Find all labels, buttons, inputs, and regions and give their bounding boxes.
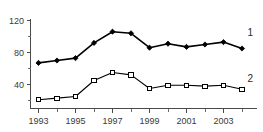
- x-tick-label-1993: 1993: [28, 116, 48, 126]
- series-2-point: [166, 83, 170, 87]
- x-tick-label-1999: 1999: [139, 116, 159, 126]
- series-1-markers: [36, 29, 245, 65]
- series-2-point: [92, 78, 96, 82]
- series-2-point: [129, 73, 133, 77]
- series-2-point: [203, 84, 207, 88]
- series-1-point: [239, 46, 244, 51]
- y-axis-major-ticks: [27, 21, 31, 85]
- line-chart: 120 80 40 1993 1995 1997 1999 2001 2003: [0, 0, 263, 132]
- x-tick-label-1997: 1997: [102, 116, 122, 126]
- x-tick-label-2001: 2001: [176, 116, 196, 126]
- series-2-point: [240, 87, 244, 91]
- series-2-line: [39, 73, 243, 100]
- y-tick-label-80: 80: [14, 48, 24, 58]
- y-tick-label-120: 120: [9, 16, 24, 26]
- series-1-point: [36, 60, 41, 65]
- series-2-label: 2: [248, 73, 254, 84]
- chart-plot-area: 120 80 40 1993 1995 1997 1999 2001 2003: [0, 0, 263, 132]
- series-2-point: [147, 86, 151, 90]
- series-1-line: [39, 32, 243, 63]
- chart-axes: [31, 19, 257, 109]
- series-1-label: 1: [248, 27, 254, 38]
- y-tick-label-40: 40: [14, 80, 24, 90]
- series-1-point: [202, 42, 207, 47]
- series-2-point: [110, 70, 114, 74]
- series-2-point: [184, 83, 188, 87]
- x-tick-label-2003: 2003: [213, 116, 233, 126]
- series-2-point: [36, 98, 40, 102]
- series-2-point: [73, 94, 77, 98]
- series-2-point: [221, 83, 225, 87]
- series-1-point: [54, 58, 59, 63]
- series-1-point: [184, 44, 189, 49]
- series-1-point: [165, 41, 170, 46]
- series-2-point: [55, 96, 59, 100]
- series-1-point: [221, 40, 226, 45]
- x-tick-label-1995: 1995: [65, 116, 85, 126]
